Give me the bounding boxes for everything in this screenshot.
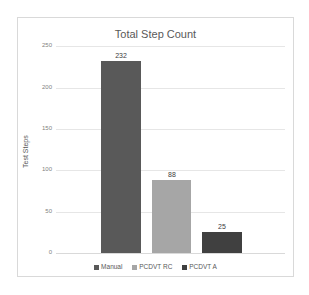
y-tick-0: 0 [36, 249, 52, 255]
y-tick-200: 200 [36, 84, 52, 90]
legend-label: Manual [101, 263, 122, 270]
legend-label: PCDVT RC [139, 263, 172, 270]
data-label-manual: 232 [101, 52, 141, 59]
legend-swatch-icon [132, 265, 137, 270]
y-tick-250: 250 [36, 42, 52, 48]
legend-swatch-icon [182, 265, 187, 270]
legend: Manual PCDVT RC PCDVT A [18, 263, 293, 270]
legend-item-pcdvt-rc: PCDVT RC [132, 263, 172, 270]
legend-item-manual: Manual [94, 263, 122, 270]
data-label-pcdvt-rc: 88 [152, 171, 192, 178]
data-label-pcdvt-a: 25 [202, 223, 242, 230]
gridline-200 [56, 88, 285, 89]
y-axis-label: Test Steps [22, 135, 29, 168]
bar-pcdvt-a [202, 232, 242, 253]
chart-area: Total Step Count Test Steps 250 200 150 … [17, 17, 294, 277]
legend-swatch-icon [94, 265, 99, 270]
y-tick-100: 100 [36, 166, 52, 172]
chart-title: Total Step Count [18, 28, 293, 40]
bar-manual [101, 61, 141, 253]
legend-item-pcdvt-a: PCDVT A [182, 263, 217, 270]
gridline-250 [56, 46, 285, 47]
gridline-150 [56, 129, 285, 130]
bar-pcdvt-rc [152, 180, 191, 253]
y-tick-150: 150 [36, 125, 52, 131]
x-axis-line [56, 253, 285, 254]
legend-label: PCDVT A [189, 263, 217, 270]
y-tick-50: 50 [36, 208, 52, 214]
